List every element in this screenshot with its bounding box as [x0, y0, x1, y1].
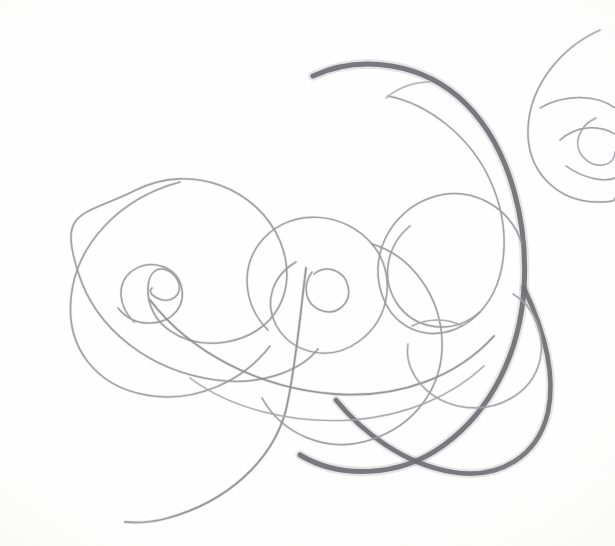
drawing-canvas [0, 0, 615, 546]
pencil-drawing-svg [0, 0, 615, 546]
